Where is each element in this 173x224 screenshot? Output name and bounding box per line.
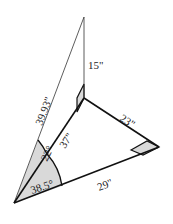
- label-29: 29": [95, 176, 114, 193]
- label-15: 15": [88, 59, 104, 71]
- geometry-diagram: 39.93" 15" 37" 23" 29" 22° 38.5°: [0, 0, 173, 224]
- label-39-93: 39.93": [33, 95, 55, 127]
- label-23: 23": [118, 112, 138, 131]
